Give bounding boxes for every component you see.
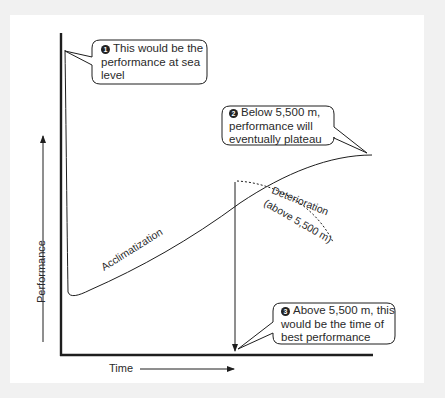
- y-axis-label: Performance: [35, 240, 47, 303]
- callout-1-text: 1This would be the performance at sea le…: [101, 42, 203, 83]
- callout-1-line-3: level: [101, 69, 203, 83]
- callout-3-line-1: Above 5,500 m, this: [293, 304, 395, 316]
- callout-2-line-2: performance will: [229, 120, 322, 134]
- number-1-icon: 1: [101, 45, 110, 54]
- callout-2-text: 2Below 5,500 m, performance will eventua…: [229, 106, 322, 147]
- callout-3-line-3: best performance: [281, 331, 395, 345]
- number-3-icon: 3: [281, 307, 290, 316]
- number-2-icon: 2: [229, 109, 238, 118]
- callout-2-line-1: Below 5,500 m,: [241, 106, 320, 118]
- callout-3-line-2: would be the time of: [281, 318, 395, 332]
- callout-1-line-2: performance at sea: [101, 56, 203, 70]
- acclimatization-label: Acclimatization: [99, 225, 165, 272]
- x-axis-label: Time: [109, 362, 133, 374]
- callout-1-line-1: This would be the: [113, 42, 203, 54]
- callout-2-line-3: eventually plateau: [229, 133, 322, 147]
- callout-3-text: 3Above 5,500 m, this would be the time o…: [281, 304, 395, 345]
